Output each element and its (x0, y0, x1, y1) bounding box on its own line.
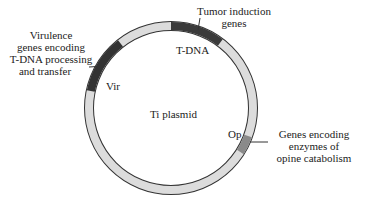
op-annotation-line-2: enzymes of (266, 140, 362, 152)
op-annotation: Genes encoding enzymes of opine cataboli… (266, 128, 362, 164)
tdna-annotation-line-2: genes (189, 17, 279, 29)
op-annotation-line-1: Genes encoding (266, 128, 362, 140)
tdna-annotation: Tumor induction genes (189, 5, 279, 29)
vir-annotation: Virulence genes encoding T-DNA processin… (6, 29, 96, 77)
tdna-annotation-line-1: Tumor induction (189, 5, 279, 17)
vir-label: Vir (106, 80, 120, 92)
vir-annotation-line-3: T-DNA processing (6, 53, 96, 65)
vir-annotation-line-1: Virulence (6, 29, 96, 41)
tdna-label: T-DNA (176, 44, 209, 56)
op-label: Op (228, 128, 241, 140)
op-annotation-line-3: opine catabolism (266, 152, 362, 164)
vir-annotation-line-4: and transfer (6, 65, 96, 77)
vir-annotation-line-2: genes encoding (6, 41, 96, 53)
plasmid-title: Ti plasmid (150, 108, 197, 120)
